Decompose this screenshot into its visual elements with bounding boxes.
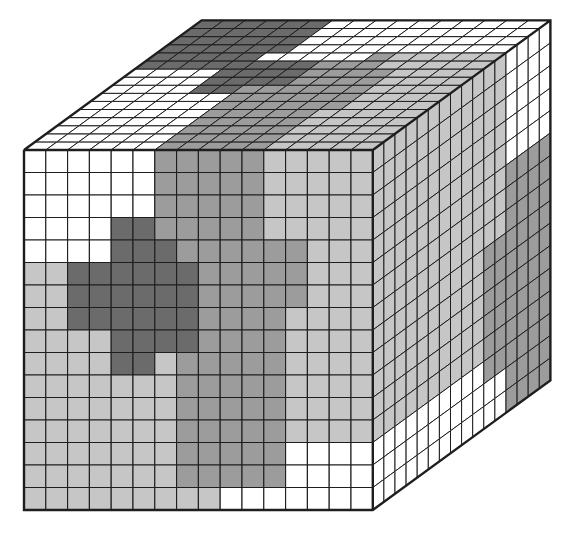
- front-cell: [286, 308, 308, 331]
- front-cell: [329, 240, 351, 263]
- front-cell: [155, 353, 177, 376]
- front-cell: [264, 173, 286, 196]
- front-cell: [307, 465, 329, 488]
- front-cell: [220, 330, 242, 353]
- front-cell: [155, 443, 177, 466]
- front-cell: [68, 465, 90, 488]
- front-cell: [264, 263, 286, 286]
- front-cell: [177, 488, 199, 511]
- front-cell: [24, 465, 46, 488]
- front-cell: [242, 443, 264, 466]
- front-cell: [329, 353, 351, 376]
- front-cell: [177, 398, 199, 421]
- front-cell: [220, 308, 242, 331]
- front-cell: [329, 150, 351, 173]
- front-face: [24, 150, 373, 510]
- front-cell: [24, 308, 46, 331]
- front-cell: [177, 443, 199, 466]
- front-cell: [351, 240, 373, 263]
- front-cell: [46, 195, 68, 218]
- front-cell: [89, 330, 111, 353]
- front-cell: [242, 353, 264, 376]
- front-cell: [24, 240, 46, 263]
- front-cell: [351, 465, 373, 488]
- front-cell: [242, 195, 264, 218]
- front-cell: [264, 375, 286, 398]
- front-cell: [89, 285, 111, 308]
- front-cell: [177, 375, 199, 398]
- front-cell: [155, 173, 177, 196]
- front-cell: [155, 150, 177, 173]
- front-cell: [24, 420, 46, 443]
- front-cell: [24, 353, 46, 376]
- front-cell: [89, 150, 111, 173]
- front-cell: [351, 398, 373, 421]
- front-cell: [111, 263, 133, 286]
- front-cell: [89, 173, 111, 196]
- front-cell: [111, 420, 133, 443]
- front-cell: [111, 375, 133, 398]
- front-cell: [111, 285, 133, 308]
- front-cell: [307, 263, 329, 286]
- front-cell: [286, 420, 308, 443]
- front-cell: [220, 285, 242, 308]
- front-cell: [307, 330, 329, 353]
- front-cell: [264, 285, 286, 308]
- front-cell: [68, 375, 90, 398]
- front-cell: [351, 218, 373, 241]
- front-cell: [133, 465, 155, 488]
- front-cell: [286, 195, 308, 218]
- front-cell: [286, 330, 308, 353]
- front-cell: [286, 398, 308, 421]
- front-cell: [133, 398, 155, 421]
- front-cell: [177, 285, 199, 308]
- front-cell: [242, 375, 264, 398]
- front-cell: [133, 308, 155, 331]
- front-cell: [111, 308, 133, 331]
- front-cell: [177, 308, 199, 331]
- front-cell: [24, 263, 46, 286]
- front-cell: [242, 330, 264, 353]
- front-cell: [177, 173, 199, 196]
- front-cell: [351, 195, 373, 218]
- front-cell: [351, 488, 373, 511]
- front-cell: [329, 330, 351, 353]
- front-cell: [111, 488, 133, 511]
- front-cell: [329, 263, 351, 286]
- front-cell: [46, 263, 68, 286]
- front-cell: [242, 465, 264, 488]
- front-cell: [220, 488, 242, 511]
- front-cell: [24, 398, 46, 421]
- front-cell: [133, 285, 155, 308]
- front-cell: [177, 195, 199, 218]
- front-cell: [198, 353, 220, 376]
- front-cell: [133, 195, 155, 218]
- front-cell: [242, 285, 264, 308]
- front-cell: [329, 465, 351, 488]
- front-cell: [89, 263, 111, 286]
- front-cell: [264, 443, 286, 466]
- front-cell: [329, 488, 351, 511]
- front-cell: [198, 195, 220, 218]
- front-cell: [198, 240, 220, 263]
- front-cell: [286, 263, 308, 286]
- front-cell: [89, 353, 111, 376]
- front-cell: [242, 398, 264, 421]
- front-cell: [68, 443, 90, 466]
- front-cell: [24, 195, 46, 218]
- front-cell: [89, 308, 111, 331]
- front-cell: [46, 150, 68, 173]
- front-cell: [46, 420, 68, 443]
- voxel-cube-diagram: [0, 0, 575, 534]
- front-cell: [46, 353, 68, 376]
- front-cell: [351, 420, 373, 443]
- front-cell: [155, 420, 177, 443]
- front-cell: [264, 398, 286, 421]
- front-cell: [68, 218, 90, 241]
- front-cell: [111, 465, 133, 488]
- front-cell: [68, 353, 90, 376]
- front-cell: [24, 150, 46, 173]
- front-cell: [351, 285, 373, 308]
- front-cell: [46, 308, 68, 331]
- front-cell: [307, 488, 329, 511]
